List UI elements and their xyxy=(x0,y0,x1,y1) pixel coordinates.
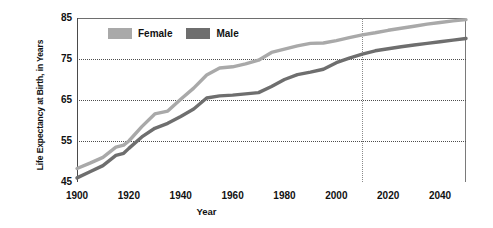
legend-label: Male xyxy=(216,28,238,39)
life-expectancy-chart: Life Expectancy at Birth, in Years 45556… xyxy=(0,0,493,228)
series-lines xyxy=(77,18,466,182)
legend-item-male: Male xyxy=(186,28,238,39)
series-line-male xyxy=(77,39,466,178)
chart-legend: FemaleMale xyxy=(108,28,239,39)
plot-area xyxy=(77,18,466,182)
x-tick-label: 1940 xyxy=(158,190,204,201)
y-tick-label: 85 xyxy=(44,13,72,23)
x-tick-label: 2020 xyxy=(365,190,411,201)
legend-swatch-female xyxy=(108,28,132,39)
y-tick-label: 55 xyxy=(44,136,72,146)
x-tick-label: 1960 xyxy=(210,190,256,201)
y-tick-label: 65 xyxy=(44,95,72,105)
x-tick-label: 1920 xyxy=(106,190,152,201)
legend-item-female: Female xyxy=(108,28,172,39)
y-tick-label: 45 xyxy=(44,177,72,187)
y-tick-label: 75 xyxy=(44,54,72,64)
x-tick-label: 1980 xyxy=(261,190,307,201)
legend-label: Female xyxy=(138,28,172,39)
x-tick-label: 2000 xyxy=(313,190,359,201)
x-axis-title-text: Year xyxy=(196,206,216,217)
series-line-female xyxy=(77,20,466,169)
x-axis-title: Year xyxy=(0,206,493,217)
x-tick-label: 2040 xyxy=(417,190,463,201)
x-tick-label: 1900 xyxy=(54,190,100,201)
legend-swatch-male xyxy=(186,28,210,39)
